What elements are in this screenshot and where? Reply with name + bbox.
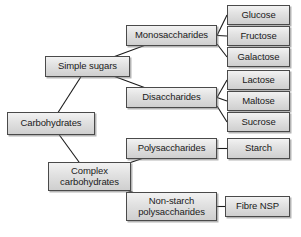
node-starch: Starch [227, 138, 290, 159]
node-fructose: Fructose [227, 26, 290, 46]
node-monosaccharides: Monosaccharides [126, 25, 217, 46]
edge-monosaccharides-to-galactose [217, 44, 227, 57]
edge-disaccharides-to-sucrose [217, 106, 227, 122]
edge-monosaccharides-to-fructose [217, 36, 227, 37]
node-non-starch-polysaccharides: Non-starch polysaccharides [126, 192, 217, 221]
edge-monosaccharides-to-glucose [217, 15, 227, 36]
node-glucose: Glucose [227, 5, 290, 25]
node-maltose: Maltose [227, 91, 290, 111]
node-carbohydrates: Carbohydrates [7, 112, 95, 135]
edge-disaccharides-to-lactose [217, 80, 227, 98]
node-fibre-nsp: Fibre NSP [225, 196, 290, 217]
edge-disaccharides-to-maltose [217, 98, 227, 102]
node-polysaccharides: Polysaccharides [126, 138, 217, 159]
node-simple-sugars: Simple sugars [45, 56, 130, 77]
node-sucrose: Sucrose [227, 112, 290, 132]
node-galactose: Galactose [227, 47, 290, 67]
carbohydrates-tree-diagram: CarbohydratesSimple sugarsComplex carboh… [0, 0, 301, 237]
node-disaccharides: Disaccharides [126, 87, 217, 108]
node-lactose: Lactose [227, 70, 290, 90]
node-complex-carbohydrates: Complex carbohydrates [48, 162, 131, 191]
